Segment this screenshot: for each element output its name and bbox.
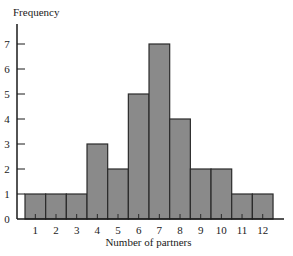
- x-tick-label: 4: [95, 224, 101, 236]
- y-tick-label: 6: [4, 63, 10, 75]
- histogram-chart: Frequency 12345678910111201234567 Number…: [0, 0, 293, 256]
- y-tick-label: 5: [4, 88, 10, 100]
- x-tick-label: 3: [74, 224, 80, 236]
- y-tick-label: 7: [4, 38, 10, 50]
- bar-9: [190, 169, 211, 219]
- x-tick-label: 11: [237, 224, 248, 236]
- y-tick-label: 4: [4, 113, 10, 125]
- x-tick-label: 6: [136, 224, 142, 236]
- y-tick-label: 2: [4, 163, 10, 175]
- x-tick-label: 1: [33, 224, 39, 236]
- bar-10: [211, 169, 232, 219]
- y-tick-label: 3: [4, 138, 10, 150]
- bars-group: [25, 44, 273, 219]
- x-tick-label: 10: [216, 224, 228, 236]
- plot-area: 12345678910111201234567: [0, 0, 293, 256]
- bar-4: [87, 144, 108, 219]
- x-tick-label: 5: [115, 224, 121, 236]
- bar-8: [170, 119, 191, 219]
- bar-5: [108, 169, 129, 219]
- bar-7: [149, 44, 170, 219]
- x-tick-label: 7: [157, 224, 163, 236]
- x-tick-label: 2: [53, 224, 59, 236]
- y-tick-label: 1: [4, 188, 10, 200]
- x-axis-label: Number of partners: [0, 236, 293, 248]
- y-tick-label: 0: [4, 213, 10, 225]
- x-tick-label: 12: [257, 224, 268, 236]
- bar-6: [128, 94, 149, 219]
- x-tick-label: 9: [198, 224, 204, 236]
- x-tick-label: 8: [177, 224, 183, 236]
